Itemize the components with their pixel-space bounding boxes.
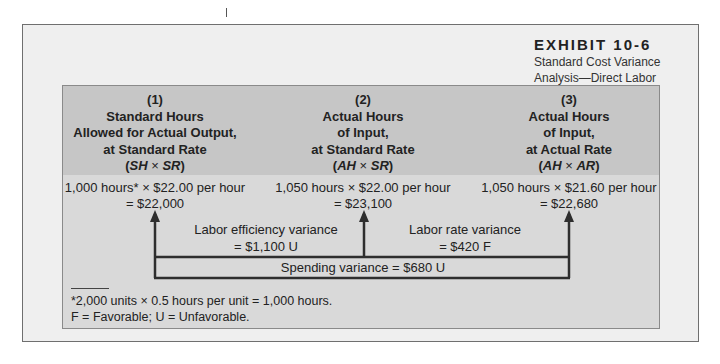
labor-efficiency-variance: Labor efficiency variance = $1,100 U bbox=[181, 221, 351, 255]
labor-rate-variance: Labor rate variance = $420 F bbox=[385, 221, 545, 255]
spending-variance: Spending variance = $680 U bbox=[223, 259, 503, 276]
exhibit-subtitle-1: Standard Cost Variance bbox=[534, 54, 704, 70]
variance-diagram: (1) Standard Hours Allowed for Actual Ou… bbox=[62, 85, 660, 329]
spending-variance-text: Spending variance = $680 U bbox=[223, 259, 503, 276]
footnote-legend: F = Favorable; U = Unfavorable. bbox=[71, 309, 250, 325]
footnote-divider bbox=[71, 288, 109, 289]
exhibit-title: EXHIBIT 10-6 bbox=[534, 36, 704, 54]
footnote-units: *2,000 units × 0.5 hours per unit = 1,00… bbox=[71, 293, 332, 309]
arrowhead-icon bbox=[150, 210, 160, 222]
scan-mark bbox=[226, 8, 227, 17]
exhibit-caption: EXHIBIT 10-6 Standard Cost Variance Anal… bbox=[534, 36, 704, 86]
arrowhead-icon bbox=[359, 210, 369, 222]
exhibit-subtitle-2: Analysis—Direct Labor bbox=[534, 70, 704, 86]
arrowhead-icon bbox=[564, 210, 574, 222]
efficiency-variance-label: Labor efficiency variance bbox=[181, 221, 351, 238]
efficiency-variance-value: = $1,100 U bbox=[181, 238, 351, 255]
rate-variance-label: Labor rate variance bbox=[385, 221, 545, 238]
rate-variance-value: = $420 F bbox=[385, 238, 545, 255]
